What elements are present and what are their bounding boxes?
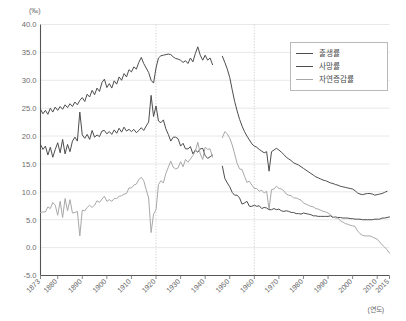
vertical-marker-lines: [156, 25, 254, 276]
svg-text:1990: 1990: [312, 277, 330, 295]
svg-text:1970: 1970: [263, 277, 281, 295]
svg-text:15.0: 15.0: [22, 160, 37, 169]
legend-label-birth-rate: 출생률: [319, 50, 340, 58]
x-axis-title: (연도): [368, 304, 385, 314]
legend-label-natural-increase-rate: 자연증감률: [319, 76, 354, 84]
svg-text:20.0: 20.0: [22, 132, 37, 141]
svg-text:2000: 2000: [336, 277, 354, 295]
svg-text:5.0: 5.0: [26, 216, 37, 225]
svg-text:1880: 1880: [41, 277, 59, 295]
svg-text:2015: 2015: [373, 277, 391, 295]
legend-swatch-natural-increase-rate: [296, 79, 313, 80]
svg-text:1910: 1910: [115, 277, 133, 295]
legend-item-birth-rate: 출생률: [296, 47, 381, 60]
svg-text:1890: 1890: [66, 277, 84, 295]
population-rate-chart: (‰) 40.035.030.025.020.015.010.05.00.0-5…: [0, 0, 406, 321]
chart-legend: 출생률 사망률 자연증감률: [290, 42, 388, 91]
svg-text:1950: 1950: [213, 277, 231, 295]
svg-text:30.0: 30.0: [22, 76, 37, 85]
svg-text:1920: 1920: [140, 277, 158, 295]
x-axis-tick-labels: 1873188018901900191019201930194019501960…: [24, 277, 391, 295]
svg-text:35.0: 35.0: [22, 48, 37, 57]
legend-swatch-death-rate: [296, 66, 313, 67]
svg-text:40.0: 40.0: [22, 20, 37, 29]
svg-text:1930: 1930: [164, 277, 182, 295]
svg-text:25.0: 25.0: [22, 104, 37, 113]
svg-text:1940: 1940: [189, 277, 207, 295]
svg-text:1960: 1960: [238, 277, 256, 295]
legend-item-death-rate: 사망률: [296, 60, 381, 73]
legend-item-natural-increase-rate: 자연증감률: [296, 73, 381, 86]
svg-text:1900: 1900: [91, 277, 109, 295]
svg-text:0.0: 0.0: [26, 243, 37, 252]
legend-label-death-rate: 사망률: [319, 63, 340, 71]
svg-text:10.0: 10.0: [22, 188, 37, 197]
y-axis-tick-labels: 40.035.030.025.020.015.010.05.00.0-5.0: [22, 20, 37, 280]
legend-swatch-birth-rate: [296, 53, 313, 54]
svg-text:1980: 1980: [287, 277, 305, 295]
